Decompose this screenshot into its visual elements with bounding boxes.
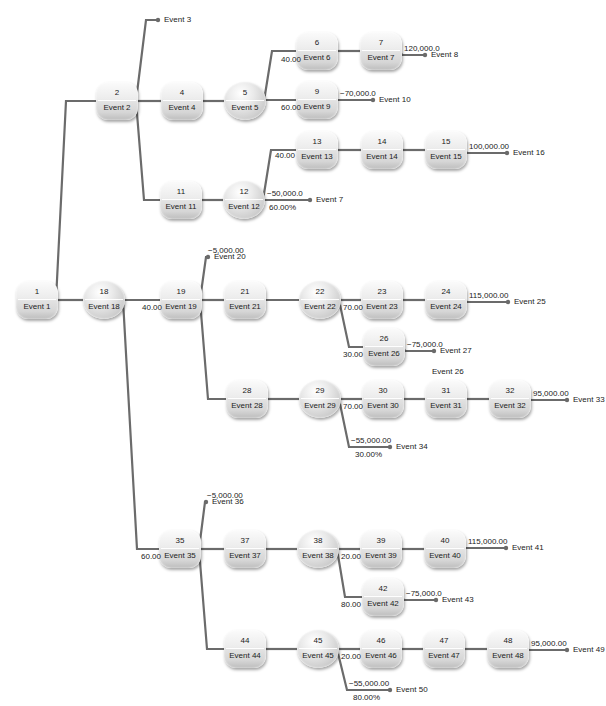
decision-node[interactable]: 9 Event 9 [296, 81, 338, 119]
node-label: Event 38 [297, 551, 339, 560]
decision-node[interactable]: 2 Event 2 [96, 82, 138, 120]
terminal-label: Event 10 [379, 95, 411, 104]
node-label: Event 32 [489, 401, 531, 410]
link-19-28 [200, 300, 226, 399]
node-label: Event 31 [425, 401, 467, 410]
node-label: Event 22 [299, 302, 341, 311]
branch-probability: 20.00 [341, 652, 361, 661]
node-number: 23 [361, 287, 403, 296]
chance-node[interactable]: 38 Event 38 [297, 530, 339, 568]
decision-node[interactable]: 35 Event 35 [159, 530, 201, 568]
node-number: 42 [362, 584, 404, 593]
decision-node[interactable]: 23 Event 23 [361, 281, 403, 319]
payoff-value: −55,000.00 [349, 679, 389, 688]
node-divider [489, 648, 527, 649]
node-label: Event 28 [226, 401, 268, 410]
decision-node[interactable]: 30 Event 30 [362, 380, 404, 418]
link-1-2 [56, 101, 96, 300]
probability-label: 80.00% [353, 693, 380, 702]
terminal-dot [434, 598, 438, 602]
node-number: 19 [160, 287, 202, 296]
decision-node[interactable]: 26 Event 26 [363, 328, 405, 366]
decision-node[interactable]: 11 Event 11 [160, 181, 202, 219]
decision-node[interactable]: 39 Event 39 [360, 530, 402, 568]
node-number: 28 [226, 386, 268, 395]
decision-node[interactable]: 14 Event 14 [361, 131, 403, 169]
chance-node[interactable]: 22 Event 22 [299, 281, 341, 319]
terminal-label: Event 7 [316, 195, 343, 204]
node-divider [427, 299, 465, 300]
decision-node[interactable]: 28 Event 28 [226, 380, 268, 418]
decision-node[interactable]: 13 Event 13 [296, 131, 338, 169]
decision-node[interactable]: 37 Event 37 [224, 530, 266, 568]
node-label: Event 9 [296, 102, 338, 111]
node-number: 37 [224, 536, 266, 545]
node-number: 47 [423, 636, 465, 645]
node-divider [226, 648, 264, 649]
node-label: Event 40 [424, 551, 466, 560]
node-divider [301, 299, 339, 300]
decision-node[interactable]: 32 Event 32 [489, 380, 531, 418]
decision-node[interactable]: 1 Event 1 [16, 281, 58, 319]
payoff-value: 95,000.00 [531, 639, 567, 648]
branch-probability: 30.00 [343, 350, 363, 359]
decision-node[interactable]: 48 Event 48 [487, 630, 529, 668]
decision-node[interactable]: 47 Event 47 [423, 630, 465, 668]
node-number: 32 [489, 386, 531, 395]
node-number: 4 [161, 88, 203, 97]
node-label: Event 45 [297, 651, 339, 660]
link-40-t41 [464, 548, 506, 549]
terminal-dot [371, 98, 375, 102]
terminal-dot [423, 53, 427, 57]
chance-node[interactable]: 45 Event 45 [297, 630, 339, 668]
terminal-label: Event 49 [573, 645, 605, 654]
link-2-t3 [136, 20, 158, 101]
link-35-44 [199, 549, 224, 649]
node-number: 38 [297, 536, 339, 545]
decision-node[interactable]: 15 Event 15 [425, 131, 467, 169]
node-label: Event 42 [362, 599, 404, 608]
decision-node[interactable]: 6 Event 6 [296, 32, 338, 70]
node-divider [226, 548, 264, 549]
payoff-value: −70,000.0 [340, 89, 376, 98]
chance-node[interactable]: 29 Event 29 [299, 380, 341, 418]
node-label: Event 47 [423, 651, 465, 660]
node-number: 1 [16, 287, 58, 296]
payoff-value: 120,000.0 [404, 44, 440, 53]
node-divider [364, 398, 402, 399]
node-divider [226, 299, 264, 300]
decision-tree: Event 3Event 8120,000.0Event 10−70,000.0… [0, 0, 606, 706]
node-divider [18, 299, 56, 300]
node-divider [362, 648, 400, 649]
branch-probability: 40.00 [275, 151, 295, 160]
branch-probability: 70.00 [343, 402, 363, 411]
decision-node[interactable]: 42 Event 42 [362, 578, 404, 616]
chance-node[interactable]: 5 Event 5 [224, 82, 266, 120]
node-number: 29 [299, 386, 341, 395]
node-divider [162, 199, 200, 200]
chance-node[interactable]: 12 Event 12 [223, 181, 265, 219]
probability-label: 60.00% [269, 203, 296, 212]
decision-node[interactable]: 31 Event 31 [425, 380, 467, 418]
decision-node[interactable]: 21 Event 21 [224, 281, 266, 319]
decision-node[interactable]: 46 Event 46 [360, 630, 402, 668]
decision-node[interactable]: 19 Event 19 [160, 281, 202, 319]
link-5-9 [264, 100, 296, 101]
node-label: Event 37 [224, 551, 266, 560]
decision-node[interactable]: 44 Event 44 [224, 630, 266, 668]
node-divider [301, 398, 339, 399]
node-label: Event 12 [223, 202, 265, 211]
payoff-value: −75,000.0 [407, 340, 443, 349]
decision-node[interactable]: 40 Event 40 [424, 530, 466, 568]
decision-node[interactable]: 7 Event 7 [360, 32, 402, 70]
link-48-t49 [527, 649, 567, 650]
decision-node[interactable]: 4 Event 4 [161, 82, 203, 120]
chance-node[interactable]: 18 Event 18 [83, 281, 125, 319]
node-number: 6 [296, 38, 338, 47]
node-label: Event 30 [362, 401, 404, 410]
link-2-11 [136, 101, 160, 200]
terminal-dot [506, 300, 510, 304]
terminal-label: Event 33 [573, 395, 605, 404]
branch-probability: 60.00 [281, 103, 301, 112]
decision-node[interactable]: 24 Event 24 [425, 281, 467, 319]
